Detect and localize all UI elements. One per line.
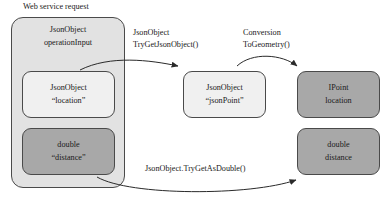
edge-label-try-get-json-object-line2: TryGetJsonObject() [133,40,198,49]
node-operation-input-line2: operationInput [44,37,92,50]
node-double-distance-line2: distance [325,152,352,164]
node-double-distance: double distance [297,128,380,175]
node-location-json: JsonObject “location” [22,71,115,118]
diagram-canvas: Web service request JsonObject operation… [0,0,384,201]
edge-label-try-get-as-double: JsonObject.TryGetAsDouble() [145,164,245,173]
edge-label-try-get-json-object-line1: JsonObject [133,28,169,37]
edge-label-conversion-to-geometry-line2: ToGeometry() [243,40,290,49]
node-operation-input-line1: JsonObject [50,24,86,37]
node-distance-json: double “distance” [22,128,115,175]
node-distance-json-line2: “distance” [51,152,85,164]
node-json-point-line1: JsonObject [206,82,242,94]
edge-label-conversion-to-geometry-line1: Conversion [243,28,281,37]
arrow-conversion-to-geometry [237,56,297,66]
node-ipoint-location-line1: IPoint [328,82,348,94]
node-distance-json-line1: double [57,139,79,151]
node-ipoint-location-line2: location [325,95,351,107]
node-location-json-line1: JsonObject [50,82,86,94]
arrow-try-get-as-double [97,177,296,192]
node-json-point: JsonObject “jsonPoint” [183,71,266,118]
node-double-distance-line1: double [327,139,349,151]
node-location-json-line2: “location” [52,95,86,107]
node-ipoint-location: IPoint location [297,71,380,118]
node-json-point-line2: “jsonPoint” [205,95,243,107]
diagram-title: Web service request [23,2,89,11]
